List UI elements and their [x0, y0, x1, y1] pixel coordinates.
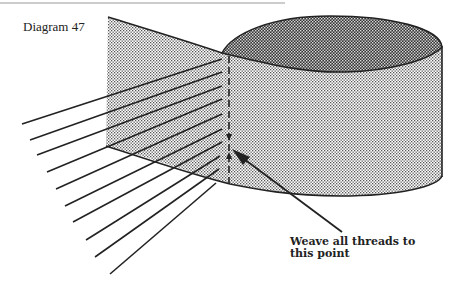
diagram-title: Diagram 47 [23, 19, 85, 35]
flat-panel [106, 17, 230, 184]
callout-line-2: this point [290, 248, 415, 260]
weave-point-callout: Weave all threads to this point [290, 236, 415, 260]
thread [110, 183, 216, 274]
thread [86, 156, 220, 240]
